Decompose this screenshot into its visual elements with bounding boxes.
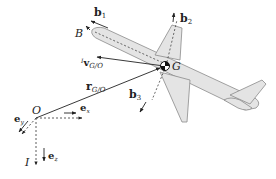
- b2-vector: [173, 13, 174, 22]
- body-frame-label: B: [74, 27, 83, 40]
- b3-vector: [140, 102, 146, 112]
- origin-label: O: [32, 104, 41, 117]
- kinematics-diagram: b1 B b2 IvG/O G rG/O b3 O ex ey ez I: [0, 0, 276, 179]
- upper-wing: [155, 25, 182, 60]
- b2-label: b2: [180, 12, 192, 26]
- ex-label: ex: [80, 102, 90, 114]
- velocity-label: IvG/O: [80, 57, 103, 70]
- r-label: rG/O: [86, 80, 106, 94]
- body-axis-b3-line: [152, 66, 166, 100]
- b3-label: b3: [129, 88, 141, 102]
- cg-label: G: [172, 60, 181, 73]
- lower-wing: [160, 72, 190, 122]
- center-of-mass-marker: [161, 62, 170, 71]
- ez-label: ez: [48, 150, 58, 162]
- b1-label: b1: [94, 6, 106, 20]
- b-frame-marker: [86, 26, 90, 30]
- inertial-frame-label: I: [24, 156, 30, 169]
- ey-label: ey: [14, 113, 24, 126]
